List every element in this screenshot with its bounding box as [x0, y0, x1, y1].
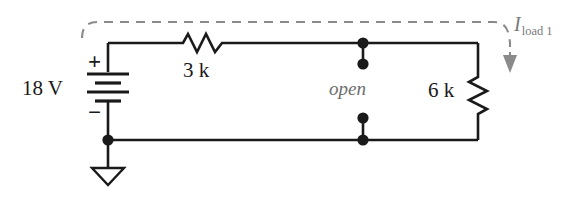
- dashed-loop-line: [82, 22, 510, 42]
- current-subscript: load 1: [522, 24, 553, 38]
- earth-ground-icon: [92, 168, 124, 185]
- series-resistor-zigzag-icon: [178, 34, 232, 52]
- current-label: Iload 1: [514, 14, 552, 34]
- load-branch: [469, 43, 487, 140]
- lower-terminal-node-dot: [357, 134, 368, 145]
- top-wire: [108, 34, 478, 52]
- load-resistor-label: 6 k: [428, 80, 454, 101]
- load-resistor-zigzag-icon: [469, 72, 487, 140]
- circuit-diagram: 18 V + − 3 k 6 k open Iload 1: [0, 0, 585, 201]
- upper-terminal-open-dot: [357, 58, 368, 69]
- polarity-minus-label: −: [88, 101, 101, 124]
- series-resistor-label: 3 k: [183, 60, 209, 81]
- source-value-label: 18 V: [22, 78, 63, 99]
- current-path-dashed: [82, 22, 517, 73]
- current-arrowhead-icon: [503, 55, 517, 73]
- current-symbol: I: [514, 13, 521, 35]
- polarity-plus-label: +: [88, 50, 101, 73]
- open-terminals-label: open: [329, 79, 366, 98]
- lower-terminal-open-dot: [357, 112, 368, 123]
- upper-terminal-node-dot: [357, 37, 368, 48]
